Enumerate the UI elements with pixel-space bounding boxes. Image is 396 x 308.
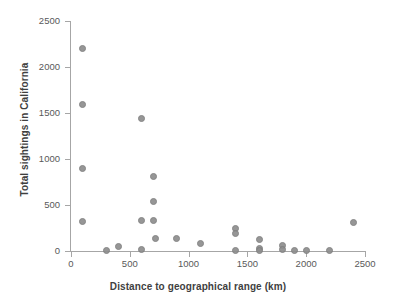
data-point [79,218,86,225]
data-point [150,173,157,180]
data-point [279,246,286,253]
data-point [150,198,157,205]
data-point [303,247,310,254]
x-tick-mark [365,252,366,257]
x-tick-label: 2500 [342,259,388,269]
data-point [326,247,333,254]
x-tick-label: 500 [107,259,153,269]
y-tick-mark [65,113,70,114]
x-tick-label: 2000 [283,259,329,269]
x-tick-label: 1000 [166,259,212,269]
data-point [138,246,145,253]
x-tick-mark [247,252,248,257]
data-point [138,115,145,122]
plot-area [71,21,365,251]
data-point [232,247,239,254]
data-point [197,240,204,247]
y-tick-label: 0 [20,246,60,255]
data-point [79,165,86,172]
y-tick-mark [65,21,70,22]
data-point [150,217,157,224]
x-tick-label: 0 [48,259,94,269]
data-point [79,45,86,52]
x-tick-label: 1500 [224,259,270,269]
data-point [115,243,122,250]
y-tick-mark [65,205,70,206]
y-tick-mark [65,67,70,68]
data-point [291,247,298,254]
x-axis-title: Distance to geographical range (km) [0,281,396,292]
y-tick-mark [65,159,70,160]
data-point [256,247,263,254]
y-axis-title: Total sightings in California [19,40,30,220]
x-tick-mark [71,252,72,257]
y-tick-label: 2500 [20,16,60,25]
x-tick-mark [189,252,190,257]
scatter-chart-figure: 05001000150020002500 0500100015002000250… [0,0,396,308]
data-point [103,247,110,254]
data-point [232,230,239,237]
x-tick-mark [130,252,131,257]
y-tick-mark [65,251,70,252]
x-axis-line [70,251,366,252]
